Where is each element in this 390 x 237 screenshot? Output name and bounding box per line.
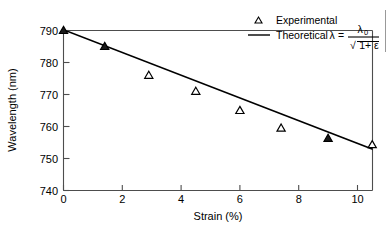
formula-numerator: λ [357, 23, 363, 35]
formula-equals: = [338, 29, 344, 41]
x-tick-label-8: 8 [296, 193, 302, 205]
x-tick-label-10: 10 [351, 193, 363, 205]
y-tick-label-780: 780 [40, 57, 58, 69]
formula-numerator-subscript: 0 [364, 28, 368, 37]
x-axis-title: Strain (%) [194, 210, 243, 222]
formula-radical-icon: √ [350, 39, 356, 51]
y-tick-label-740: 740 [40, 185, 58, 197]
y-axis-title: Wavelength (nm) [6, 68, 18, 151]
y-tick-label-760: 760 [40, 121, 58, 133]
x-tick-label-4: 4 [178, 193, 184, 205]
legend-label-theoretical: Theoretical [276, 29, 328, 41]
chart-figure: 790 780 770 760 750 740 0 2 4 6 8 10 Str… [0, 0, 390, 237]
x-tick-label-0: 0 [60, 193, 66, 205]
legend-label-experimental: Experimental [276, 14, 337, 26]
y-tick-label-750: 750 [40, 153, 58, 165]
y-tick-label-770: 770 [40, 89, 58, 101]
y-tick-label-790: 790 [40, 25, 58, 37]
chart-svg: 790 780 770 760 750 740 0 2 4 6 8 10 Str… [0, 0, 390, 237]
x-tick-label-6: 6 [237, 193, 243, 205]
formula-denominator: 1+ ε [359, 39, 379, 51]
formula-lambda-symbol: λ [329, 29, 335, 41]
x-tick-label-2: 2 [119, 193, 125, 205]
